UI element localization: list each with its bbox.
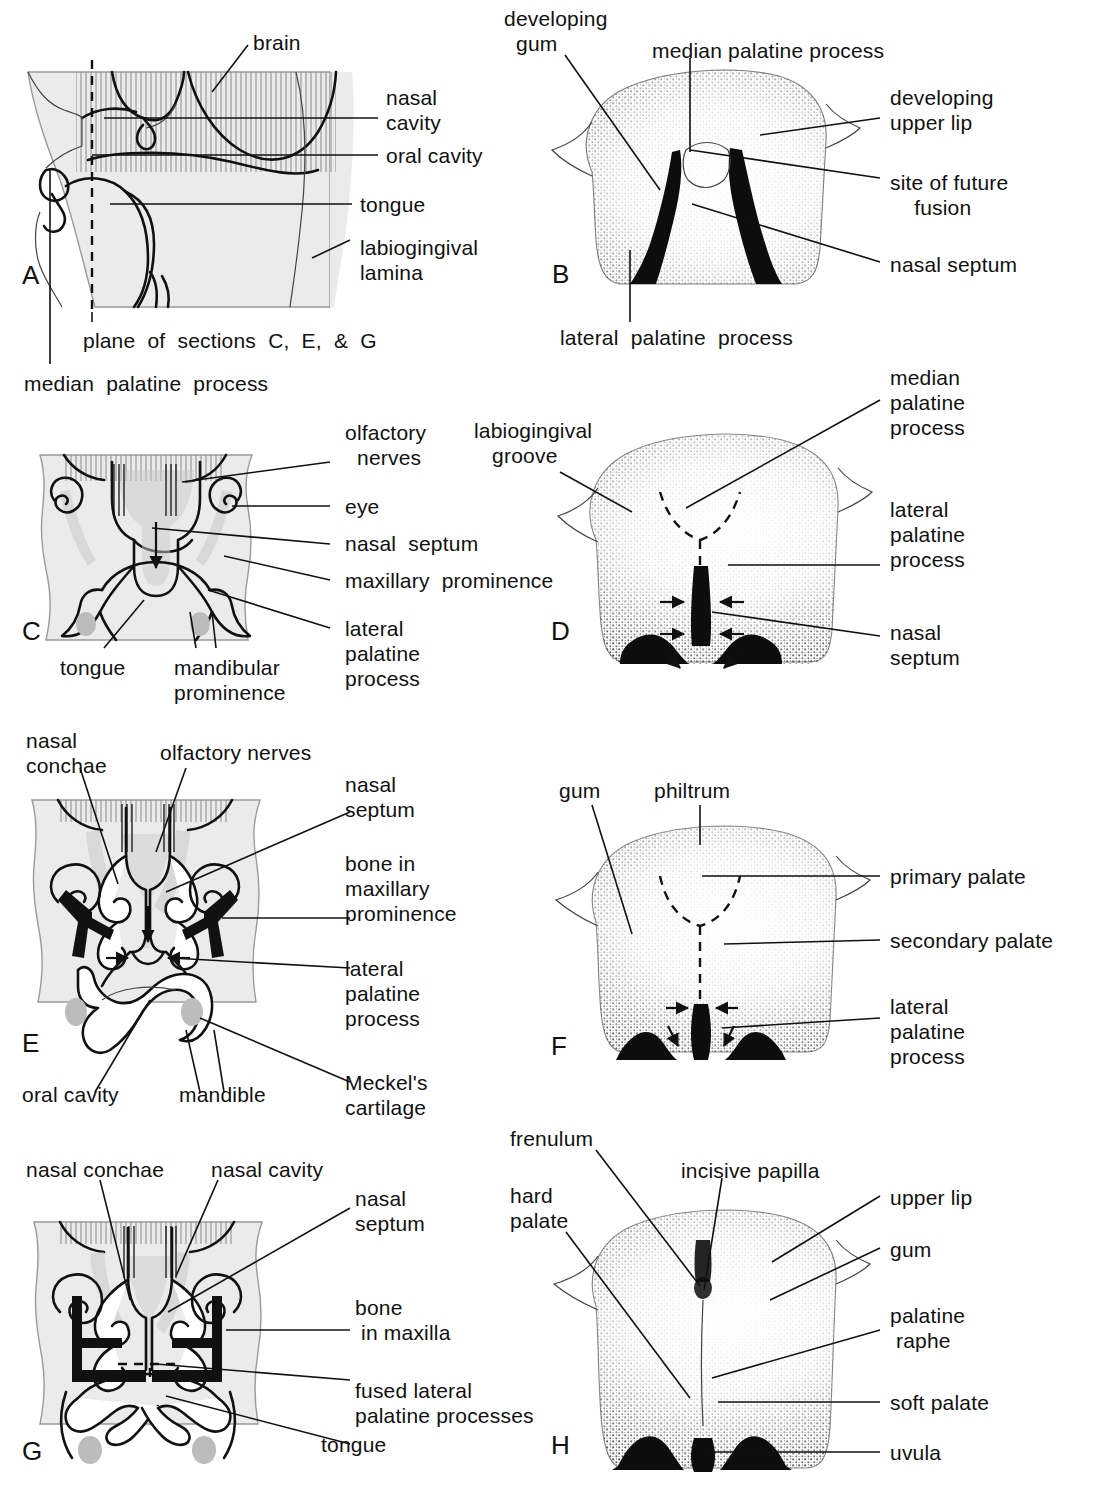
label-nasal-cavity-a: nasal cavity: [386, 85, 441, 135]
label-nasal-septum-d: nasal septum: [890, 620, 960, 670]
label-labiogingival-groove: labiogingival groove: [474, 418, 592, 468]
label-tongue-a: tongue: [360, 192, 425, 217]
label-lateral-palatine-process-b: lateral palatine process: [560, 325, 793, 350]
label-brain: brain: [253, 30, 301, 55]
panel-g-drawing: [34, 1180, 350, 1464]
label-frenulum: frenulum: [510, 1126, 593, 1151]
panel-letter-c: C: [22, 618, 41, 644]
label-tongue-g: tongue: [321, 1432, 386, 1457]
label-olfactory-nerves-c: olfactory nerves: [345, 420, 426, 470]
label-fused-lateral-palatine-processes: fused lateral palatine processes: [355, 1378, 534, 1428]
label-developing-upper-lip: developing upper lip: [890, 85, 994, 135]
label-gum-f: gum: [559, 778, 600, 803]
panel-letter-b: B: [552, 261, 569, 287]
label-oral-cavity-a: oral cavity: [386, 143, 483, 168]
panel-letter-a: A: [22, 262, 39, 288]
label-mandibular-prominence: mandibular prominence: [174, 655, 286, 705]
label-incisive-papilla: incisive papilla: [681, 1158, 820, 1183]
label-lateral-palatine-process-f: lateral palatine process: [890, 994, 965, 1069]
label-bone-in-maxillary-prominence: bone in maxillary prominence: [345, 851, 457, 926]
label-median-palatine-process-d: median palatine process: [890, 365, 965, 440]
label-maxillary-prominence-c: maxillary prominence: [345, 568, 553, 593]
label-lateral-palatine-process-d: lateral palatine process: [890, 497, 965, 572]
label-nasal-septum-c: nasal septum: [345, 531, 478, 556]
label-lateral-palatine-process-c: lateral palatine process: [345, 616, 420, 691]
panel-letter-f: F: [551, 1033, 567, 1059]
label-olfactory-nerves-e: olfactory nerves: [160, 740, 311, 765]
label-gum-h: gum: [890, 1237, 931, 1262]
panel-letter-g: G: [22, 1438, 42, 1464]
label-bone-in-maxilla: bone in maxilla: [355, 1295, 451, 1345]
panel-f-drawing: [556, 805, 880, 1060]
label-nasal-cavity-g: nasal cavity: [211, 1157, 323, 1182]
label-nasal-septum-b: nasal septum: [890, 252, 1017, 277]
label-meckels-cartilage: Meckel's cartilage: [345, 1070, 428, 1120]
panel-letter-d: D: [551, 618, 570, 644]
label-primary-palate: primary palate: [890, 864, 1026, 889]
label-nasal-conchae-e: nasal conchae: [26, 728, 107, 778]
label-median-palatine-process-b: median palatine process: [652, 38, 884, 63]
label-labiogingival-lamina: labiogingival lamina: [360, 235, 478, 285]
label-eye: eye: [345, 494, 379, 519]
label-plane-of-sections: plane of sections C, E, & G: [83, 328, 377, 353]
label-secondary-palate: secondary palate: [890, 928, 1053, 953]
label-philtrum: philtrum: [654, 778, 730, 803]
label-soft-palate: soft palate: [890, 1390, 989, 1415]
label-hard-palate: hard palate: [510, 1183, 568, 1233]
label-lateral-palatine-process-e: lateral palatine process: [345, 956, 420, 1031]
figure-canvas: brain nasal cavity oral cavity tongue la…: [0, 0, 1099, 1495]
label-site-of-future-fusion: site of future fusion: [890, 170, 1008, 220]
panel-letter-h: H: [551, 1432, 570, 1458]
label-nasal-septum-e: nasal septum: [345, 772, 415, 822]
label-median-palatine-process-a: median palatine process: [24, 371, 268, 396]
label-mandible: mandible: [179, 1082, 266, 1107]
panel-e-drawing: [32, 768, 350, 1092]
panel-c-drawing: [40, 455, 330, 648]
label-palatine-raphe: palatine raphe: [890, 1303, 965, 1353]
label-uvula: uvula: [890, 1440, 941, 1465]
label-nasal-conchae-g: nasal conchae: [26, 1157, 164, 1182]
label-nasal-septum-g: nasal septum: [355, 1186, 425, 1236]
panel-b-drawing: [552, 55, 880, 322]
label-developing-gum: developing gum: [504, 6, 608, 56]
label-upper-lip-h: upper lip: [890, 1185, 972, 1210]
panel-letter-e: E: [22, 1030, 39, 1056]
panel-a-drawing: [28, 45, 378, 364]
label-tongue-c: tongue: [60, 655, 125, 680]
label-oral-cavity-e: oral cavity: [22, 1082, 119, 1107]
panel-h-drawing: [554, 1150, 880, 1472]
panel-d-drawing: [558, 400, 880, 668]
